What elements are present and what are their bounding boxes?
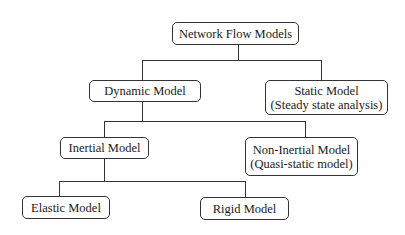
connector-to-static [321, 60, 322, 80]
connector-root-down [238, 45, 239, 61]
connector-to-rigid [245, 181, 246, 197]
connector-dynamic-bar [104, 121, 306, 122]
node-label: Network Flow Models [179, 27, 292, 41]
node-inertial-model: Inertial Model [60, 137, 149, 159]
connector-to-non-inertial [305, 121, 306, 137]
node-label: Inertial Model [69, 141, 141, 155]
connector-root-bar [142, 60, 322, 61]
node-elastic-model: Elastic Model [22, 196, 110, 219]
connector-to-elastic [59, 181, 60, 196]
node-network-flow-models: Network Flow Models [172, 22, 299, 45]
node-non-inertial-model: Non-Inertial Model (Quasi-static model) [245, 137, 358, 176]
node-label: Dynamic Model [104, 84, 186, 98]
node-label: Static Model [294, 84, 358, 98]
node-label: Elastic Model [31, 201, 101, 215]
node-sublabel: (Quasi-static model) [250, 157, 352, 171]
node-rigid-model: Rigid Model [200, 197, 289, 220]
diagram-canvas: Network Flow Models Dynamic Model Static… [0, 0, 405, 235]
connector-to-dynamic [142, 60, 143, 80]
connector-inertial-bar [59, 181, 246, 182]
node-static-model: Static Model (Steady state analysis) [265, 80, 388, 115]
connector-to-inertial [104, 121, 105, 137]
node-label: Rigid Model [213, 202, 277, 216]
node-label: Non-Inertial Model [253, 143, 351, 157]
connector-dynamic-down [142, 102, 143, 122]
node-sublabel: (Steady state analysis) [271, 98, 383, 112]
connector-inertial-down [104, 159, 105, 182]
node-dynamic-model: Dynamic Model [89, 80, 201, 102]
